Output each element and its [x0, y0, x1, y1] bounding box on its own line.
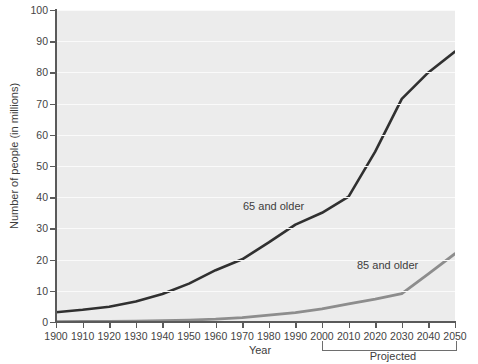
y-tick-label: 90 — [18, 36, 48, 47]
x-tick-mark — [242, 322, 243, 328]
y-tick-label: 20 — [18, 255, 48, 266]
y-tick-mark — [50, 291, 55, 292]
x-tick-mark — [162, 322, 163, 328]
series-label-85-and-older: 85 and older — [357, 259, 418, 271]
y-tick-mark — [50, 104, 55, 105]
series-label-65-and-older: 65 and older — [243, 200, 304, 212]
x-tick-mark — [375, 322, 376, 328]
y-tick-label: 100 — [18, 5, 48, 16]
x-tick-mark — [56, 322, 57, 328]
y-tick-mark — [50, 197, 55, 198]
series-line-65-and-older — [56, 52, 455, 313]
gridline — [56, 197, 455, 198]
chart-container: 0102030405060708090100 19001910192019301… — [0, 0, 478, 364]
x-tick-mark — [189, 322, 190, 328]
gridline — [56, 41, 455, 42]
y-tick-mark — [50, 135, 55, 136]
x-axis-title: Year — [210, 344, 310, 356]
y-tick-mark — [50, 322, 55, 323]
y-axis-title: Number of people (in millions) — [8, 56, 20, 256]
x-tick-mark — [349, 322, 350, 328]
x-axis-line — [55, 321, 456, 323]
y-tick-mark — [50, 72, 55, 73]
y-axis-line — [55, 9, 57, 323]
x-tick-mark — [83, 322, 84, 328]
x-tick-mark — [322, 322, 323, 328]
y-tick-label: 60 — [18, 130, 48, 141]
x-tick-mark — [136, 322, 137, 328]
y-tick-mark — [50, 166, 55, 167]
x-tick-mark — [269, 322, 270, 328]
y-tick-label: 40 — [18, 192, 48, 203]
y-tick-mark — [50, 260, 55, 261]
projected-label: Projected — [338, 350, 448, 362]
y-tick-mark — [50, 41, 55, 42]
y-tick-label: 70 — [18, 99, 48, 110]
y-tick-mark — [50, 10, 55, 11]
gridline — [56, 291, 455, 292]
y-tick-label: 50 — [18, 161, 48, 172]
gridline — [56, 166, 455, 167]
y-tick-label: 10 — [18, 286, 48, 297]
x-tick-mark — [428, 322, 429, 328]
y-tick-label: 80 — [18, 67, 48, 78]
gridline — [56, 135, 455, 136]
x-tick-mark — [455, 322, 456, 328]
x-tick-mark — [109, 322, 110, 328]
gridline — [56, 104, 455, 105]
gridline — [56, 72, 455, 73]
y-tick-mark — [50, 228, 55, 229]
y-tick-label: 0 — [18, 317, 48, 328]
x-tick-mark — [402, 322, 403, 328]
x-tick-mark — [216, 322, 217, 328]
y-tick-label: 30 — [18, 223, 48, 234]
gridline — [56, 10, 455, 11]
plot-area — [56, 10, 455, 322]
x-tick-mark — [295, 322, 296, 328]
gridline — [56, 228, 455, 229]
